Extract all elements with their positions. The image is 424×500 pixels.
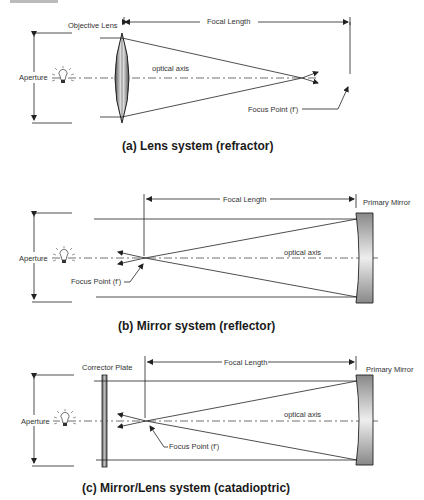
panel-a-caption: (a) Lens system (refractor): [122, 139, 273, 153]
focal-length-label: Focal Length: [224, 358, 267, 367]
panel-b-caption: (b) Mirror system (reflector): [118, 319, 275, 333]
optical-axis-label: optical axis: [152, 64, 189, 73]
telescope-optics-diagram: optical axis Aperture Objective Lens Foc…: [0, 0, 424, 500]
panel-c-caption: (c) Mirror/Lens system (catadioptric): [82, 481, 290, 495]
primary-mirror: [356, 213, 373, 303]
focus-point-label: Focus Point (f'): [169, 442, 220, 451]
focal-length-label: Focal Length: [207, 17, 250, 26]
light-bulb-icon: [54, 409, 76, 426]
optical-axis-label: optical axis: [284, 410, 321, 419]
light-bulb-icon: [52, 66, 74, 83]
objective-lens-label: Objective Lens: [68, 21, 118, 30]
primary-mirror-label: Primary Mirror: [363, 198, 411, 207]
light-bulb-icon: [53, 246, 75, 263]
panel-b-mirror-system: optical axis Aperture Primary Mirror Foc…: [17, 194, 411, 333]
corrector-plate: [102, 375, 107, 467]
focus-point-label: Focus Point (f'): [248, 105, 299, 114]
optical-axis-label: optical axis: [284, 248, 321, 257]
primary-mirror-label: Primary Mirror: [366, 365, 414, 374]
primary-mirror: [356, 375, 373, 465]
aperture-label: Aperture: [19, 73, 48, 82]
cropped-text-fragment: [10, 0, 58, 3]
panel-c-catadioptric-system: optical axis Aperture Corrector Plate Pr…: [19, 356, 414, 495]
corrector-plate-label: Corrector Plate: [82, 363, 132, 372]
aperture-label: Aperture: [21, 417, 50, 426]
focal-length-label: Focal Length: [223, 195, 266, 204]
aperture-label: Aperture: [19, 254, 48, 263]
focus-point-label: Focus Point (f'): [71, 277, 122, 286]
panel-a-lens-system: optical axis Aperture Objective Lens Foc…: [17, 17, 350, 153]
